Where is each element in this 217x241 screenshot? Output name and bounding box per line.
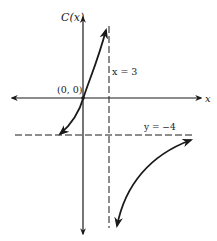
horizontal-asymptote-label: y = −4	[143, 122, 176, 132]
origin-point	[81, 96, 85, 100]
x-axis-label: x	[205, 93, 211, 104]
function-graph: C(x) x (0, 0) x = 3 y = −4	[0, 0, 217, 241]
origin-label: (0, 0)	[57, 84, 83, 95]
curve-right-branch	[117, 140, 191, 226]
vertical-asymptote-label: x = 3	[112, 66, 137, 77]
y-axis-label: C(x)	[61, 11, 84, 24]
